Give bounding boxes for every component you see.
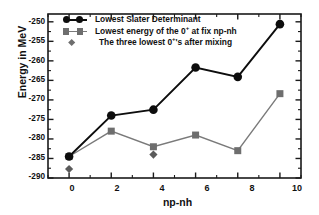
series-diamond [65, 150, 158, 173]
data-point [65, 152, 74, 161]
plot-border [48, 14, 301, 178]
data-point [276, 20, 285, 29]
figure: Energy in MeV -250 -255 -260 -265 -270 -… [0, 0, 319, 215]
data-point [108, 128, 115, 135]
data-point [234, 147, 241, 154]
data-point [149, 105, 158, 114]
data-point [107, 111, 116, 120]
data-point [276, 90, 283, 97]
data-series-layer [65, 20, 284, 173]
data-point [65, 165, 73, 173]
data-point [233, 73, 242, 82]
axis-ticks [48, 14, 301, 178]
data-point [149, 150, 157, 158]
axis-frame [48, 14, 301, 178]
data-point [192, 132, 199, 139]
series-square [66, 90, 284, 160]
data-point [191, 63, 200, 72]
data-point [150, 143, 157, 150]
plot-area [0, 0, 319, 215]
